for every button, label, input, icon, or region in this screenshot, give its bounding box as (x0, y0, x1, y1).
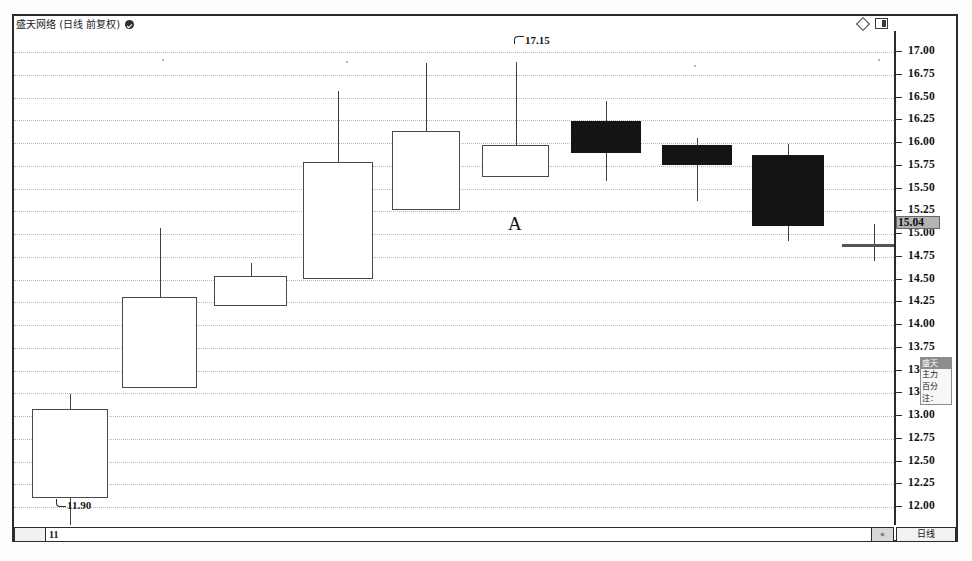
gridline (14, 234, 894, 235)
tick-label: 12.25 (908, 476, 935, 488)
tick-label: 12.50 (908, 454, 935, 466)
gridline (14, 257, 894, 258)
tick-mark (896, 233, 902, 234)
tick-mark (896, 415, 902, 416)
candle-body (482, 145, 549, 177)
candle-body (842, 244, 894, 247)
gridline (14, 393, 894, 394)
tick-mark (896, 370, 902, 371)
tick-mark (896, 392, 902, 393)
tick-mark (896, 438, 902, 439)
last-price-tag: 15.04 (896, 216, 940, 229)
scan-speckle (694, 65, 696, 67)
tick-mark (896, 51, 902, 52)
tick-mark (896, 347, 902, 348)
period-selector[interactable]: 日线 (896, 527, 956, 542)
axis-tooltip-line-1: 主力 (921, 369, 951, 381)
scan-speckle (162, 59, 164, 61)
gridline (14, 507, 894, 508)
axis-tooltip-popup[interactable]: 盛天 主力 百分 注： (920, 357, 952, 405)
tick-mark (896, 142, 902, 143)
diamond-icon[interactable] (856, 16, 870, 30)
tick-mark (896, 324, 902, 325)
tick-label: 13.00 (908, 408, 935, 420)
panel-toggle-icon[interactable] (875, 18, 888, 29)
tick-label: 15.50 (908, 181, 935, 193)
gridline (14, 416, 894, 417)
scan-speckle (878, 59, 880, 61)
low-callout-label: 11.90 (67, 499, 91, 511)
gridline (14, 98, 894, 99)
title-bar: 盛天网络 (日线 前复权) (14, 16, 956, 31)
candle-body (392, 131, 460, 210)
tick-mark (896, 188, 902, 189)
candle-body (122, 297, 197, 388)
scan-speckle (346, 61, 348, 63)
high-callout-marker (514, 36, 524, 44)
candle-wick (874, 224, 875, 261)
candle-body (571, 121, 641, 153)
gridline (14, 439, 894, 440)
low-callout-marker (56, 499, 66, 507)
tick-mark (896, 483, 902, 484)
status-left-button[interactable] (14, 527, 46, 542)
gridline (14, 462, 894, 463)
tick-mark (896, 74, 902, 75)
tick-label: 15.25 (908, 203, 935, 215)
tick-label: 16.50 (908, 90, 935, 102)
status-bar: 11 « 日线 (14, 527, 956, 542)
high-callout-label: 17.15 (525, 34, 550, 46)
tick-label: 16.00 (908, 135, 935, 147)
code-input-field[interactable]: 11 (46, 527, 872, 542)
tick-mark (896, 301, 902, 302)
tick-label: 13.75 (908, 340, 935, 352)
stock-chart-window: 盛天网络 (日线 前复权) 17.15 11.90 A 17.0016.7516… (0, 0, 972, 561)
tick-label: 14.75 (908, 249, 935, 261)
tick-label: 14.50 (908, 272, 935, 284)
tick-mark (896, 97, 902, 98)
candle-body (752, 155, 824, 226)
page-title: 盛天网络 (日线 前复权) (14, 16, 120, 31)
checkmark-badge-icon (125, 20, 134, 29)
tick-label: 16.75 (908, 67, 935, 79)
tick-label: 12.00 (908, 499, 935, 511)
candle-body (303, 162, 373, 279)
tick-label: 14.25 (908, 294, 935, 306)
prev-page-button[interactable]: « (872, 527, 894, 542)
gridline (14, 52, 894, 53)
candle-body (32, 409, 108, 498)
price-axis[interactable]: 17.0016.7516.5016.2516.0015.7515.5015.25… (894, 31, 956, 525)
tick-mark (896, 165, 902, 166)
tick-mark (896, 210, 902, 211)
tick-label: 17.00 (908, 44, 935, 56)
axis-tooltip-line-3: 注： (921, 393, 951, 405)
tick-label: 14.00 (908, 317, 935, 329)
tick-label: 12.75 (908, 431, 935, 443)
chart-plot-area[interactable]: 17.15 11.90 A (14, 31, 894, 525)
gridline (14, 120, 894, 121)
tick-mark (896, 256, 902, 257)
gridline (14, 484, 894, 485)
tick-mark (896, 461, 902, 462)
tick-mark (896, 506, 902, 507)
candle-body (214, 276, 287, 306)
tick-label: 16.25 (908, 112, 935, 124)
axis-tooltip-header: 盛天 (921, 358, 951, 369)
title-bar-icons (858, 18, 956, 29)
gridline (14, 280, 894, 281)
region-label-a: A (508, 213, 522, 235)
tick-mark (896, 119, 902, 120)
axis-tooltip-line-2: 百分 (921, 381, 951, 393)
gridline (14, 75, 894, 76)
tick-label: 15.75 (908, 158, 935, 170)
tick-mark (896, 279, 902, 280)
candle-body (662, 145, 732, 165)
